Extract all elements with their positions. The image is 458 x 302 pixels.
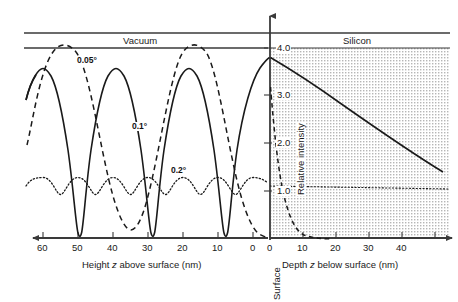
region-label-silicon: Silicon: [342, 36, 372, 46]
curve-label-02: 0.2°: [170, 166, 187, 175]
x-tick-label-v-20: 20: [177, 243, 188, 253]
x-tick-label-s-20: 20: [330, 243, 341, 253]
figure-container: Vacuum Silicon 4.0 3.0 2.0 1.0 Relative …: [0, 0, 458, 302]
region-label-vacuum: Vacuum: [122, 36, 158, 46]
y-tick-label-2: 2.0: [276, 138, 291, 148]
x-tick-label-v-50: 50: [72, 243, 83, 253]
surface-label: Surface: [272, 267, 282, 300]
x-axis-title-silicon-part3: below surface (nm): [315, 259, 398, 270]
curve-0p1-left-stub: [26, 75, 36, 100]
y-tick-label-3: 3.0: [276, 90, 291, 100]
x-tick-label-v-10: 10: [212, 243, 223, 253]
x-tick-label-v-0: 0: [250, 243, 255, 253]
x-tick-label-v-40: 40: [107, 243, 118, 253]
y-tick-label-1: 1.0: [276, 186, 291, 196]
x-tick-label-s-40: 40: [396, 243, 407, 253]
x-tick-label-s-10: 10: [297, 243, 308, 253]
y-axis-title: Relative intensity: [296, 122, 306, 196]
x-axis-title-silicon-part1: Depth: [282, 259, 310, 270]
y-tick-label-4: 4.0: [276, 43, 291, 53]
x-axis-title-vacuum-part1: Height: [82, 259, 112, 270]
xsw-intensity-plot: [0, 0, 458, 302]
x-axis-title-vacuum: Height z above surface (nm): [82, 260, 201, 270]
curve-0p1-vacuum: [26, 58, 270, 237]
curve-label-005: 0.05°: [76, 56, 98, 65]
x-axis-title-vacuum-part3: above surface (nm): [117, 259, 201, 270]
x-tick-label-s-0: 0: [267, 243, 272, 253]
x-tick-label-v-30: 30: [142, 243, 153, 253]
x-tick-label-s-30: 30: [363, 243, 374, 253]
curve-label-01: 0.1°: [131, 122, 148, 131]
x-tick-label-v-60: 60: [37, 243, 48, 253]
x-axis-title-silicon: Depth z below surface (nm): [282, 260, 398, 270]
